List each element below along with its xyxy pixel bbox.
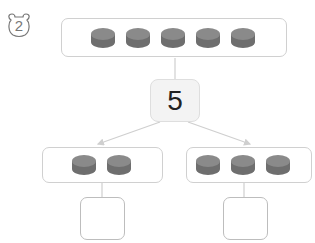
coin-icon <box>125 26 151 50</box>
coin-icon <box>90 26 116 50</box>
left-part-box <box>42 147 163 183</box>
coin-icon <box>265 153 291 177</box>
coin-icon <box>230 153 256 177</box>
left-answer-box[interactable] <box>80 197 125 240</box>
coin-icon <box>230 26 256 50</box>
right-answer-box[interactable] <box>223 197 268 240</box>
problem-number: 2 <box>5 17 33 34</box>
coin-icon <box>71 153 97 177</box>
total-number: 5 <box>167 85 183 117</box>
coin-icon <box>195 153 221 177</box>
coin-icon <box>160 26 186 50</box>
problem-number-badge: 2 <box>5 12 33 38</box>
total-number-box: 5 <box>150 79 200 122</box>
coin-icon <box>195 26 221 50</box>
coin-icon <box>106 153 132 177</box>
